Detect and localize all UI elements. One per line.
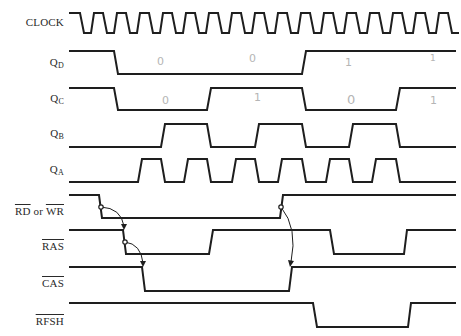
qa-waveform bbox=[69, 159, 456, 182]
annotation-qd-3: 1 bbox=[430, 53, 436, 63]
signal-label-ras: RAS bbox=[0, 240, 64, 252]
qd-waveform bbox=[69, 51, 456, 74]
rd-wr-waveform bbox=[69, 195, 456, 218]
qd-label-sub: D bbox=[58, 61, 64, 70]
clock-label-text: CLOCK bbox=[26, 16, 64, 28]
wr-label: WR bbox=[46, 205, 64, 217]
qb-waveform bbox=[69, 124, 456, 147]
signal-label-cas: CAS bbox=[0, 277, 64, 289]
signal-label-qa: QA bbox=[0, 163, 64, 177]
signal-label-rfsh: RFSH bbox=[0, 315, 64, 327]
annotation-qd-0: 0 bbox=[157, 55, 164, 68]
rfsh-waveform bbox=[69, 303, 456, 327]
clock-waveform bbox=[69, 13, 459, 33]
cas-waveform bbox=[69, 267, 456, 291]
qc-waveform bbox=[69, 88, 456, 110]
signal-label-rd-or-wr: RD or WR bbox=[0, 205, 64, 217]
or-label: or bbox=[31, 205, 46, 217]
signal-label-qc: QC bbox=[0, 92, 64, 106]
qa-label-sub: A bbox=[58, 168, 64, 177]
signal-label-clock: CLOCK bbox=[0, 16, 64, 28]
annotation-qd-2: 1 bbox=[345, 56, 352, 69]
qa-label-main: Q bbox=[50, 163, 58, 175]
rfsh-label-text: RFSH bbox=[36, 315, 64, 327]
rd-label: RD bbox=[15, 205, 31, 217]
signal-label-qd: QD bbox=[0, 56, 64, 70]
annotation-qc-1: 1 bbox=[254, 91, 261, 104]
cas-label-text: CAS bbox=[42, 277, 64, 289]
signal-label-qb: QB bbox=[0, 127, 64, 141]
ras-label-text: RAS bbox=[42, 240, 64, 252]
annotation-qc-0: 0 bbox=[162, 94, 169, 107]
qd-label-main: Q bbox=[50, 56, 58, 68]
qb-label-sub: B bbox=[58, 132, 64, 141]
timing-diagram bbox=[0, 0, 461, 336]
annotation-qd-1: 0 bbox=[249, 52, 256, 65]
qc-label-sub: C bbox=[58, 97, 64, 106]
annotation-qc-3: 1 bbox=[430, 94, 437, 107]
annotation-qc-2: 0 bbox=[347, 92, 355, 107]
